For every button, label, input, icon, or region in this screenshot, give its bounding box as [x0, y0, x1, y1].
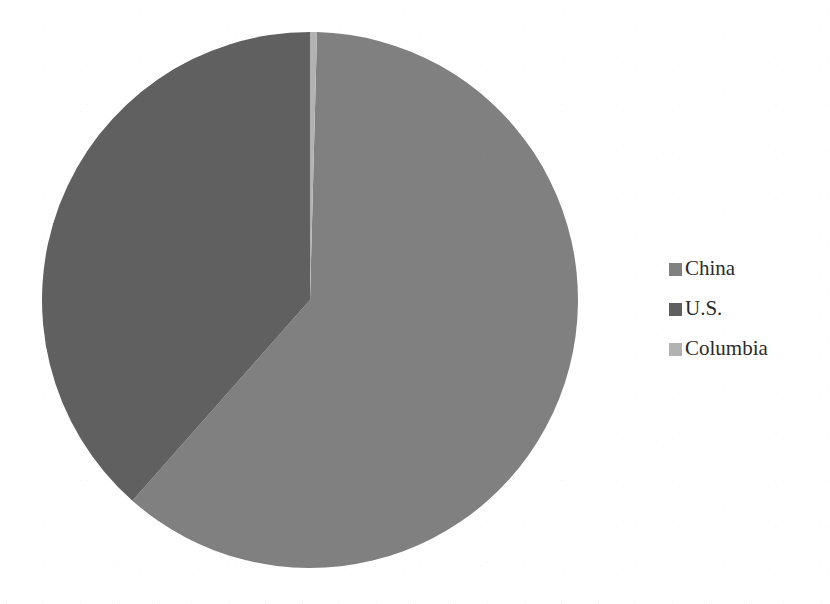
legend-swatch-columbia-icon: [669, 343, 682, 356]
pie-plot-area: [0, 0, 620, 604]
legend-label-columbia: Columbia: [685, 338, 768, 359]
legend-label-china: China: [685, 258, 735, 279]
legend-item-columbia[interactable]: Columbia: [669, 328, 829, 368]
legend-item-us[interactable]: U.S.: [669, 288, 829, 328]
legend-item-china[interactable]: China: [669, 248, 829, 288]
legend-swatch-china-icon: [669, 263, 682, 276]
chart-legend: China U.S. Columbia: [669, 248, 829, 368]
pie-chart-figure: China U.S. Columbia: [0, 0, 830, 604]
legend-swatch-us-icon: [669, 303, 682, 316]
legend-label-us: U.S.: [685, 298, 722, 319]
pie-slice-group: [42, 32, 578, 568]
pie-svg: [0, 0, 620, 604]
